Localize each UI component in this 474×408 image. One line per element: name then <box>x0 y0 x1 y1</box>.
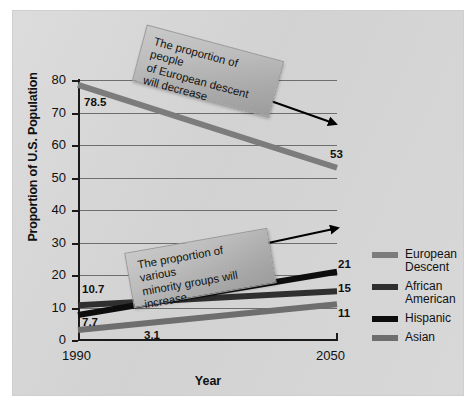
legend-label-european-descent: European Descent <box>405 248 457 274</box>
chart-figure: 80 70 60 50 40 30 20 10 0 Proportion of … <box>0 0 474 408</box>
legend-item-hispanic: Hispanic <box>372 312 468 325</box>
legend-label-african-american-line2: American <box>405 293 456 306</box>
legend-swatch-hispanic <box>372 316 398 322</box>
legend-item-asian: Asian <box>372 331 468 344</box>
legend-item-european-descent: European Descent <box>372 248 468 274</box>
arrow-minority-growth <box>268 228 338 243</box>
legend-swatch-african-american <box>372 284 398 290</box>
legend-item-african-american: African American <box>372 280 468 306</box>
legend-label-african-american: African American <box>405 280 456 306</box>
legend-swatch-asian <box>372 335 398 341</box>
legend-label-asian: Asian <box>405 331 435 344</box>
legend-swatch-european-descent <box>372 252 398 258</box>
legend-label-hispanic: Hispanic <box>405 312 451 325</box>
legend-label-european-descent-line2: Descent <box>405 261 457 274</box>
arrow-european-descent <box>268 100 336 124</box>
chart-legend: European Descent African American Hispan… <box>372 248 468 350</box>
